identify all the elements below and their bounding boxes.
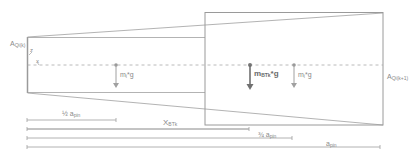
label-section-k: AQi(k) [10,40,26,48]
label-force-center: mBTk*g [254,70,279,78]
label-dim-three-quarter-a-pin: ¾ apin [258,131,276,139]
label-dim-half-a-pin: ½ apin [62,110,80,118]
force-arrow-right [291,63,297,88]
label-dim-x-btk: XBTk [163,119,177,127]
force-arrow-center [247,63,254,90]
label-x-axis: x [36,58,39,64]
label-force-right: mi*g [298,71,312,79]
diagram-canvas [0,0,417,159]
label-force-left: mi*g [120,71,134,79]
force-arrow-left [113,63,119,88]
label-section-k-plus-1: AQi(k+1) [387,73,408,81]
label-z-axis: z [30,47,33,53]
label-dim-a-pin: apin [326,140,337,148]
